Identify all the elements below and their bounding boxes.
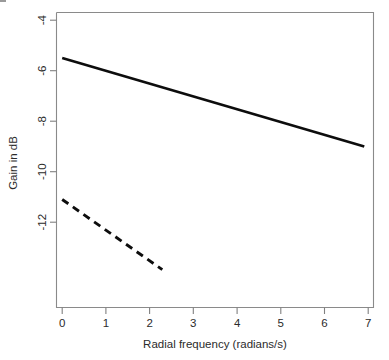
x-axis-title: Radial frequency (radians/s) (143, 338, 287, 350)
page-corner-artifact (0, 0, 6, 2)
y-ticklabel: -4 (36, 14, 48, 25)
y-ticklabel: -6 (36, 66, 48, 76)
y-axis-title: Gain in dB (7, 136, 19, 190)
y-ticklabel: -8 (36, 116, 48, 126)
x-ticklabel: 4 (234, 317, 241, 329)
y-ticklabel: -10 (36, 163, 48, 180)
x-ticklabel: 2 (146, 317, 152, 329)
x-ticklabel: 5 (278, 317, 284, 329)
y-ticklabel: -12 (36, 214, 48, 231)
chart-background (0, 0, 389, 360)
x-ticklabel: 6 (321, 317, 327, 329)
x-ticklabel: 0 (59, 317, 65, 329)
x-ticklabel: 1 (103, 317, 109, 329)
x-ticklabel: 7 (365, 317, 371, 329)
x-ticklabel: 3 (190, 317, 196, 329)
chart-figure: -4 -6 -8 -10 -12 0 1 2 3 4 5 6 7 (0, 0, 389, 360)
line-chart-canvas: -4 -6 -8 -10 -12 0 1 2 3 4 5 6 7 (0, 0, 389, 360)
